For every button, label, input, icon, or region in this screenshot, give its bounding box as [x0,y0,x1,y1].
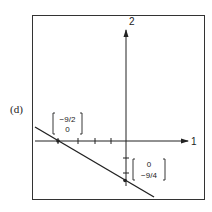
x-intercept-vector-label: −9/2 0 [53,113,82,134]
y-intercept-bottom: −9/4 [141,171,157,180]
y-intercept-point [123,179,127,183]
y-axis-label: 2 [129,16,135,27]
panel-label: (d) [10,103,23,116]
x-axis-label: 1 [191,136,197,147]
plot-frame [33,16,205,200]
x-intercept-bottom: 0 [65,125,70,134]
x-intercept-point [56,139,60,143]
x-intercept-top: −9/2 [60,115,76,124]
y-intercept-vector-label: 0 −9/4 [133,159,165,180]
y-intercept-top: 0 [147,160,152,169]
line-graph-diagram: 2 1 (d) −9/2 0 0 −9/4 [0,0,212,212]
plotted-line [35,127,154,197]
